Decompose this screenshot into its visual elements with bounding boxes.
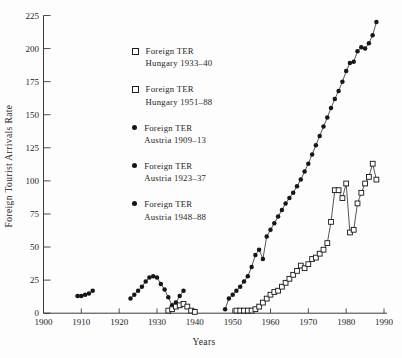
data-point-square <box>306 262 311 267</box>
data-point-circle <box>367 41 372 46</box>
data-point-square <box>329 220 334 225</box>
data-point-circle <box>374 20 379 25</box>
data-point-square <box>325 241 330 246</box>
data-point-circle <box>280 208 285 213</box>
data-point-circle <box>128 296 133 301</box>
data-point-circle <box>272 221 277 226</box>
data-point-circle <box>287 196 292 201</box>
data-point-square <box>374 177 379 182</box>
filled-circle-icon <box>132 201 137 206</box>
legend-series-range: Austria 1923–37 <box>144 172 206 184</box>
data-point-circle <box>159 282 164 287</box>
data-point-circle <box>136 288 141 293</box>
data-point-circle <box>140 284 145 289</box>
data-point-square <box>321 247 326 252</box>
data-point-circle <box>317 134 322 139</box>
series-hungary-1933-40 <box>166 302 197 315</box>
legend-series-name: Foreign TER <box>144 122 206 134</box>
y-tick-label: 225 <box>26 11 40 21</box>
legend-item-hungary-1933-40: Foreign TER Hungary 1933–40 <box>132 45 212 70</box>
data-point-circle <box>162 287 167 292</box>
data-point-square <box>192 310 197 315</box>
y-tick-label: 25 <box>30 275 40 285</box>
data-point-circle <box>302 169 307 174</box>
data-point-circle <box>177 294 182 299</box>
legend-item-austria-1923-37: Foreign TER Austria 1923–37 <box>132 160 212 185</box>
x-tick-label: 1990 <box>375 317 394 327</box>
open-square-icon <box>132 48 139 55</box>
data-point-circle <box>90 288 95 293</box>
legend-series-name: Foreign TER <box>144 160 206 172</box>
data-point-circle <box>321 124 326 129</box>
data-point-circle <box>234 288 239 293</box>
data-point-circle <box>306 161 311 166</box>
data-point-circle <box>223 307 228 312</box>
data-point-square <box>370 161 375 166</box>
data-point-circle <box>325 115 330 120</box>
legend-series-range: Austria 1909–13 <box>144 134 206 146</box>
data-point-circle <box>355 49 360 54</box>
data-point-circle <box>314 143 319 148</box>
series-hungary-1951-88 <box>234 161 379 313</box>
filled-circle-icon <box>132 163 137 168</box>
data-point-circle <box>336 89 341 94</box>
axes <box>44 16 388 314</box>
data-point-circle <box>370 33 375 38</box>
legend-series-name: Foreign TER <box>146 45 213 57</box>
data-point-circle <box>249 265 254 270</box>
data-point-circle <box>246 274 251 279</box>
x-tick-label: 1930 <box>148 317 167 327</box>
x-tick-label: 1910 <box>72 317 91 327</box>
data-point-circle <box>155 275 160 280</box>
data-point-circle <box>143 279 148 284</box>
data-point-circle <box>310 152 315 157</box>
data-point-square <box>359 190 364 195</box>
data-point-circle <box>166 295 171 300</box>
x-tick-label: 1920 <box>110 317 129 327</box>
data-point-circle <box>87 291 92 296</box>
data-point-square <box>340 196 345 201</box>
data-point-square <box>355 201 360 206</box>
data-point-circle <box>181 288 186 293</box>
legend-series-range: Austria 1948–88 <box>144 211 206 223</box>
legend-series-name: Foreign TER <box>144 198 206 210</box>
y-tick-label: 75 <box>30 209 40 219</box>
x-tick-label: 1900 <box>35 317 54 327</box>
data-point-circle <box>344 69 349 74</box>
data-point-circle <box>253 253 258 258</box>
data-point-circle <box>291 191 296 196</box>
data-point-circle <box>340 79 345 84</box>
data-point-square <box>363 181 368 186</box>
legend-item-austria-1948-88: Foreign TER Austria 1948–88 <box>132 198 212 223</box>
open-square-icon <box>132 86 139 93</box>
tourism-rate-figure: 0255075100125150175200225190019101920193… <box>0 0 402 358</box>
data-point-circle <box>242 279 247 284</box>
series-austria-1909-13 <box>75 288 95 298</box>
data-point-circle <box>257 247 262 252</box>
data-point-circle <box>230 292 235 297</box>
data-point-circle <box>238 284 243 289</box>
y-tick-label: 50 <box>30 242 40 252</box>
x-tick-label: 1940 <box>186 317 205 327</box>
data-point-square <box>351 227 356 232</box>
x-axis-title: Years <box>192 337 215 347</box>
y-tick-label: 125 <box>26 143 40 153</box>
legend-item-austria-1909-13: Foreign TER Austria 1909–13 <box>132 122 212 147</box>
data-point-circle <box>283 201 288 206</box>
y-tick-label: 100 <box>26 176 40 186</box>
data-point-circle <box>268 228 273 233</box>
data-point-circle <box>333 97 338 102</box>
data-point-circle <box>299 177 304 182</box>
data-point-circle <box>329 106 334 111</box>
x-tick-label: 1980 <box>337 317 356 327</box>
x-tick-label: 1960 <box>262 317 281 327</box>
data-point-square <box>344 181 349 186</box>
axis-ticks <box>44 16 385 314</box>
legend-item-hungary-1951-88: Foreign TER Hungary 1951–88 <box>132 83 212 108</box>
y-tick-label: 200 <box>26 44 40 54</box>
legend-series-range: Hungary 1933–40 <box>146 57 213 69</box>
data-point-circle <box>351 60 356 65</box>
data-point-circle <box>276 214 281 219</box>
data-point-circle <box>132 292 137 297</box>
y-axis-title: Foreign Tourist Arrivals Rate <box>4 105 14 228</box>
